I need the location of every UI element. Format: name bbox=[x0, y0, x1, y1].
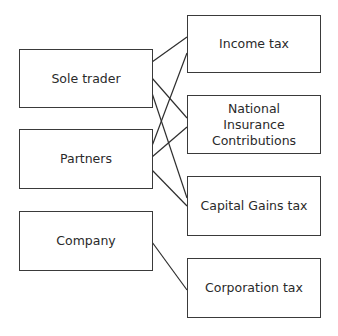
edge-partners-cgt bbox=[152, 170, 187, 206]
node-label: Sole trader bbox=[51, 71, 120, 87]
node-label: Income tax bbox=[219, 36, 289, 52]
node-national-insurance: National Insurance Contributions bbox=[187, 95, 321, 154]
node-partners: Partners bbox=[19, 129, 153, 189]
node-label: National Insurance Contributions bbox=[198, 101, 310, 149]
edge-company-corp-tax bbox=[152, 242, 187, 290]
node-capital-gains-tax: Capital Gains tax bbox=[187, 176, 321, 236]
node-label: Partners bbox=[60, 151, 112, 167]
node-label: Capital Gains tax bbox=[201, 198, 308, 214]
node-income-tax: Income tax bbox=[187, 15, 321, 73]
node-corporation-tax: Corporation tax bbox=[187, 258, 321, 318]
node-sole-trader: Sole trader bbox=[19, 49, 153, 108]
node-label: Company bbox=[56, 233, 115, 249]
node-company: Company bbox=[19, 211, 153, 271]
node-label: Corporation tax bbox=[205, 280, 303, 296]
edge-sole-trader-income-tax bbox=[152, 37, 187, 62]
edge-sole-trader-cgt bbox=[152, 93, 187, 198]
